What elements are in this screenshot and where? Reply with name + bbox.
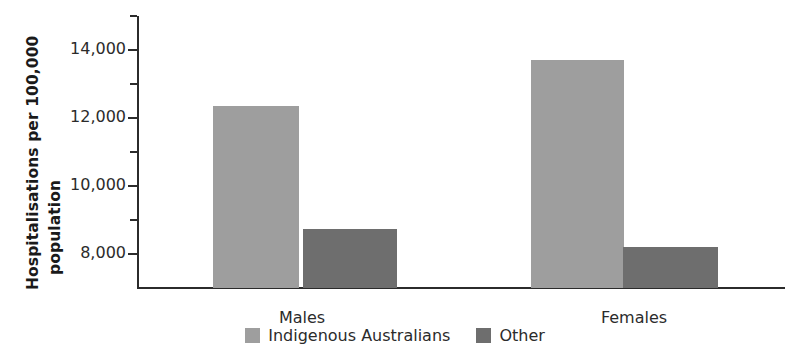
y-tick-14000 bbox=[128, 49, 137, 51]
legend: Indigenous AustraliansOther bbox=[0, 326, 790, 345]
legend-item-indigenous-australians: Indigenous Australians bbox=[245, 326, 450, 345]
y-axis-line bbox=[137, 16, 139, 288]
bar-males-indigenous bbox=[213, 106, 299, 288]
legend-label: Indigenous Australians bbox=[268, 326, 450, 345]
y-tick-label-10000: 10,000 bbox=[6, 175, 126, 194]
x-axis-label-males: Males bbox=[242, 308, 362, 327]
y-tick-15000 bbox=[130, 15, 137, 17]
y-tick-10000 bbox=[128, 185, 137, 187]
bar-females-indigenous bbox=[531, 60, 624, 288]
x-axis-label-females: Females bbox=[574, 308, 694, 327]
y-tick-12000 bbox=[128, 117, 137, 119]
y-tick-9000 bbox=[130, 219, 137, 221]
bar-chart: Hospitalisations per 100,000 population … bbox=[0, 0, 790, 358]
legend-swatch-icon bbox=[245, 328, 260, 343]
bar-females-other bbox=[623, 247, 718, 288]
y-tick-13000 bbox=[130, 83, 137, 85]
y-tick-label-14000: 14,000 bbox=[6, 39, 126, 58]
plot-area: MalesFemales bbox=[137, 16, 785, 288]
y-tick-label-12000: 12,000 bbox=[6, 107, 126, 126]
legend-item-other: Other bbox=[476, 326, 544, 345]
y-tick-8000 bbox=[128, 253, 137, 255]
y-tick-label-8000: 8,000 bbox=[6, 243, 126, 262]
legend-label: Other bbox=[499, 326, 544, 345]
legend-swatch-icon bbox=[476, 328, 491, 343]
y-tick-11000 bbox=[130, 151, 137, 153]
bar-males-other bbox=[303, 229, 397, 289]
